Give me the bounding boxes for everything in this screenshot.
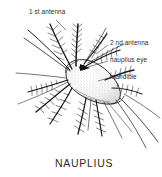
label-second-antenna: 2 nd antenna <box>110 40 149 46</box>
ventral-thin-ray-2 <box>104 102 122 138</box>
label-mandible: mandible <box>110 74 137 80</box>
lower-left-ray-c <box>50 88 72 124</box>
lower-left-thin-ray-1 <box>16 73 66 78</box>
nauplius-figure: 1 st antenna 2 nd antenna nauplius eye m… <box>0 0 162 177</box>
ventral-thin-ray-1 <box>88 99 91 130</box>
lower-left-thin-ray-2 <box>18 82 68 104</box>
lower-left-appendages <box>16 73 72 124</box>
second-antenna-ray-a <box>84 34 107 64</box>
first-antenna-ray-b <box>24 38 70 71</box>
nauplius-line-drawing <box>0 0 162 177</box>
first-antenna-ray-a <box>28 30 70 70</box>
label-nauplius-eye: nauplius eye <box>110 57 147 63</box>
nauplius-body <box>66 60 124 104</box>
label-first-antenna: 1 st antenna <box>29 9 65 15</box>
figure-caption: NAUPLIUS <box>55 157 113 169</box>
mandible-long-seta-3 <box>124 94 160 118</box>
leader-first-antenna <box>56 20 66 30</box>
nauplius-eye-core <box>79 65 85 70</box>
ventral-setae-a <box>75 102 88 132</box>
body-stipple <box>70 65 117 101</box>
ventral-setae-b <box>92 104 105 132</box>
mandible-long-seta-2 <box>116 100 146 148</box>
